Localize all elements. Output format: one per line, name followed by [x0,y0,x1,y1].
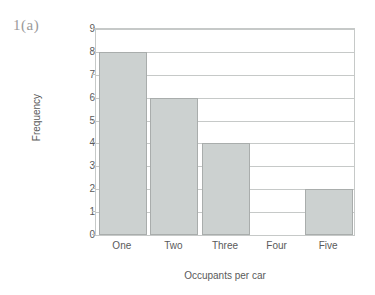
bar-slot [202,29,250,235]
bar-slot [99,29,147,235]
y-axis-title: Frequency [31,78,42,158]
bar-slot [254,29,302,235]
x-tick-label: Five [298,240,358,251]
figure-label: 1(a) [13,17,39,34]
chart-page: 1(a) Frequency 0123456789 OneTwoThreeFou… [0,0,375,295]
x-axis-title: Occupants per car [95,270,355,281]
bar[interactable] [99,52,147,235]
bar-series [97,29,353,235]
bar[interactable] [150,98,198,235]
plot-area [95,28,355,236]
y-axis-ticks: 0123456789 [66,28,95,236]
x-axis-ticks: OneTwoThreeFourFive [95,240,355,256]
bar-slot [305,29,353,235]
bar[interactable] [305,189,353,235]
bar-slot [150,29,198,235]
bar[interactable] [202,143,250,235]
